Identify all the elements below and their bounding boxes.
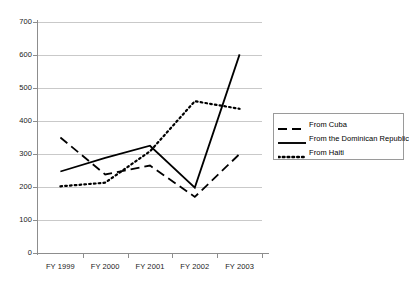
legend-swatch-icon [278, 134, 306, 144]
y-axis-tick-mark [33, 253, 37, 254]
legend-item-from-haiti[interactable]: From Haiti [274, 145, 403, 160]
legend-item-label: From the Dominican Republic [309, 134, 409, 143]
series-line-from-the-dominican-republic [60, 54, 239, 187]
series-line-from-haiti [60, 101, 239, 186]
y-axis-tick-mark [33, 88, 37, 89]
legend-item-label: From Cuba [309, 120, 347, 129]
y-axis-tick-mark [33, 187, 37, 188]
x-axis-tick-mark [83, 254, 84, 258]
x-axis-tick-mark [172, 254, 173, 258]
x-axis-tick-mark [128, 254, 129, 258]
y-axis-tick-mark [33, 121, 37, 122]
y-axis-tick-mark [33, 220, 37, 221]
legend-swatch-icon [278, 148, 306, 158]
legend-swatch-icon [278, 120, 306, 130]
legend-item-from-the-dominican-republic[interactable]: From the Dominican Republic [274, 131, 403, 146]
y-axis-tick-mark [33, 22, 37, 23]
y-axis-tick-mark [33, 154, 37, 155]
x-axis-tick-mark [262, 254, 263, 258]
legend-item-label: From Haiti [309, 148, 344, 157]
x-axis-tick-mark [217, 254, 218, 258]
chart-legend: From CubaFrom the Dominican RepublicFrom… [273, 113, 404, 160]
legend-item-from-cuba[interactable]: From Cuba [274, 117, 403, 132]
y-axis-tick-mark [33, 55, 37, 56]
